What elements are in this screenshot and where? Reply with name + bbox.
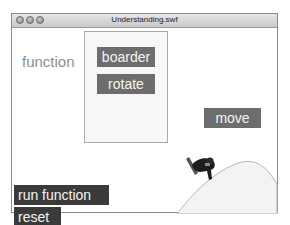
reset-button[interactable]: reset: [14, 207, 61, 225]
snowboarder-icon[interactable]: [184, 155, 222, 185]
window-title: Understanding.swf: [12, 15, 277, 24]
flash-stage: function boarder rotate move run functio…: [12, 27, 277, 212]
run-function-button[interactable]: run function: [14, 185, 109, 205]
app-window: Understanding.swf function boarder rotat…: [11, 13, 278, 213]
title-bar[interactable]: Understanding.swf: [12, 14, 277, 28]
